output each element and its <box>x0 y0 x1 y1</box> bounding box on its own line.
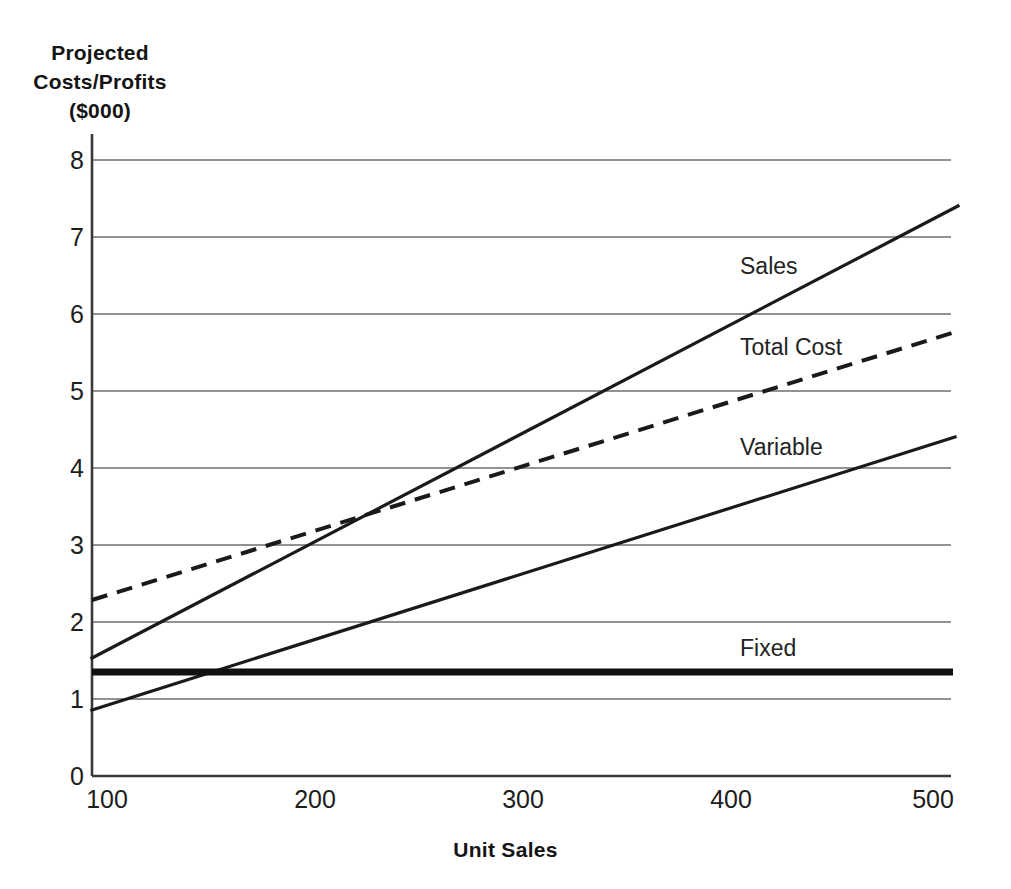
series-label-total-cost: Total Cost <box>740 336 842 359</box>
gridlines <box>92 160 951 699</box>
plot-area <box>0 0 1011 889</box>
series-line-sales <box>92 206 958 658</box>
breakeven-chart: Projected Costs/Profits ($000) 8 7 6 5 4… <box>0 0 1011 889</box>
series-label-variable: Variable <box>740 436 823 459</box>
series-label-fixed: Fixed <box>740 637 796 660</box>
x-axis-title: Unit Sales <box>0 838 1011 862</box>
series-label-sales: Sales <box>740 255 798 278</box>
series-lines <box>92 206 958 710</box>
series-line-total-cost <box>92 332 955 600</box>
